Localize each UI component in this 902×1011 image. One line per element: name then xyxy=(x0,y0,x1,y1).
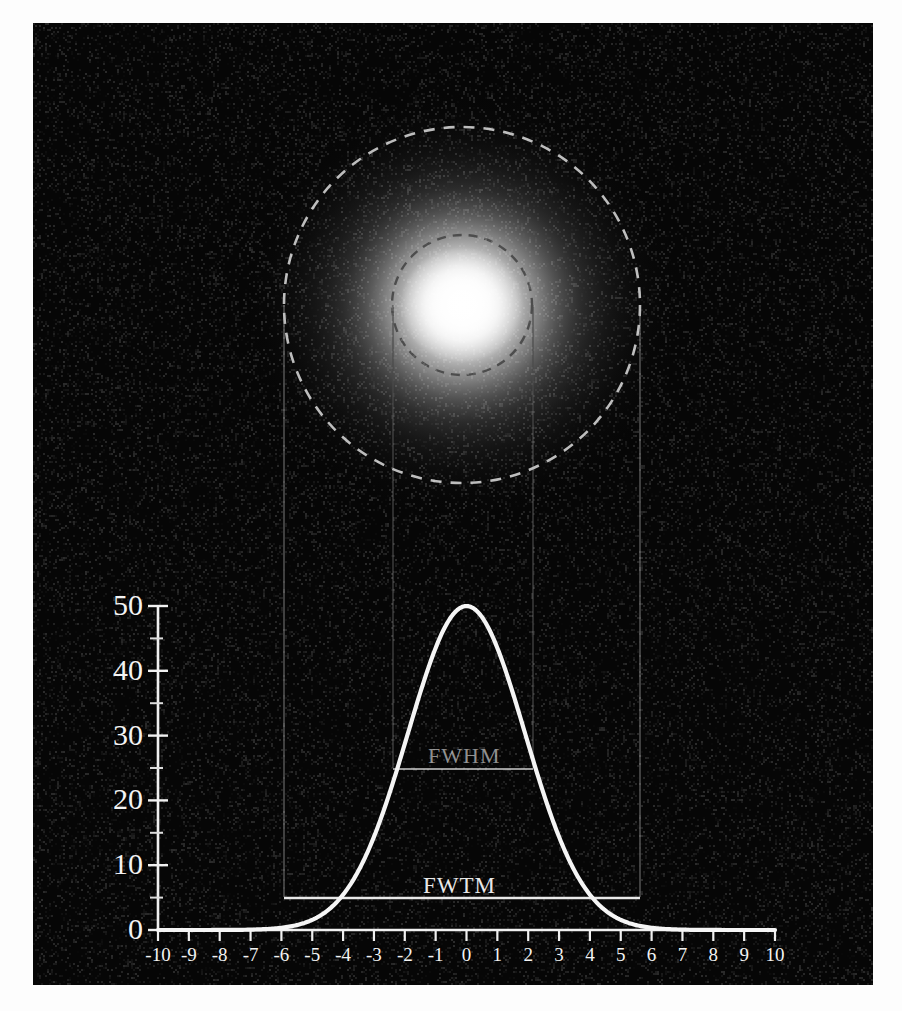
dark-image-panel: 01020304050 -10-9-8-7-6-5-4-3-2-10123456… xyxy=(33,23,873,985)
fwhm-annotation-label: FWHM xyxy=(428,745,500,767)
gaussian-plot xyxy=(33,23,873,985)
y-tick-label: 20 xyxy=(91,784,143,814)
fwtm-annotation-label: FWTM xyxy=(423,874,496,897)
figure-root: 01020304050 -10-9-8-7-6-5-4-3-2-10123456… xyxy=(0,0,902,1011)
y-tick-label: 40 xyxy=(91,655,143,685)
x-tick-label: 10 xyxy=(755,945,795,964)
y-tick-label: 30 xyxy=(91,720,143,750)
y-tick-label: 50 xyxy=(91,590,143,620)
y-tick-label: 0 xyxy=(91,914,143,944)
y-tick-label: 10 xyxy=(91,849,143,879)
